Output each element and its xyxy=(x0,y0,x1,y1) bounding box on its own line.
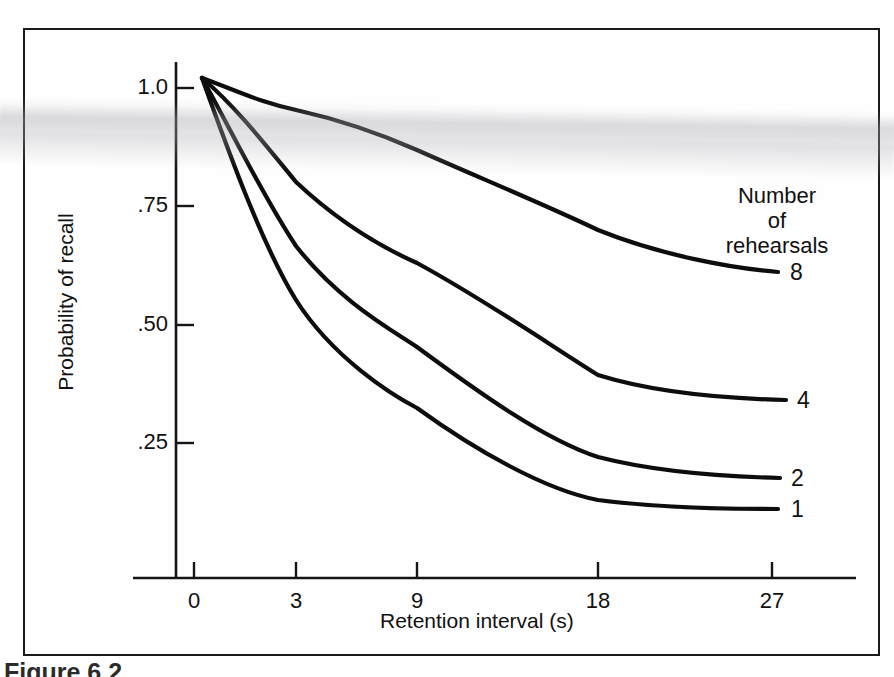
x-tick-label-0: 0 xyxy=(164,588,224,614)
x-tick-label-3: 3 xyxy=(266,588,326,614)
series-label-2: 2 xyxy=(791,465,804,492)
figure-caption-strip: Figure 6.2 xyxy=(0,662,894,677)
series-label-1: 1 xyxy=(791,496,804,523)
legend-title-line-3: rehearsals xyxy=(692,233,862,258)
y-tick-label-0.75: .75 xyxy=(68,192,168,218)
x-tick-label-27: 27 xyxy=(742,588,802,614)
figure-caption: Figure 6.2 xyxy=(4,662,122,677)
y-tick-label-0.50: .50 xyxy=(68,311,168,337)
y-tick-label-1.0: 1.0 xyxy=(68,74,168,100)
series-label-4: 4 xyxy=(797,387,810,414)
curve-series-1 xyxy=(202,78,778,509)
x-tick-label-18: 18 xyxy=(568,588,628,614)
legend-title: Number of rehearsals xyxy=(692,183,862,258)
legend-title-line-2: of xyxy=(692,208,862,233)
y-tick-label-0.25: .25 xyxy=(68,429,168,455)
x-axis-title: Retention interval (s) xyxy=(380,609,574,633)
curve-series-2 xyxy=(202,78,780,478)
figure-root: 1.0 .75 .50 .25 0 3 9 18 27 Probability … xyxy=(0,0,894,677)
y-axis-title: Probability of recall xyxy=(54,192,78,412)
chart-plot-area xyxy=(0,0,894,677)
series-label-8: 8 xyxy=(790,259,803,286)
legend-title-line-1: Number xyxy=(692,183,862,208)
